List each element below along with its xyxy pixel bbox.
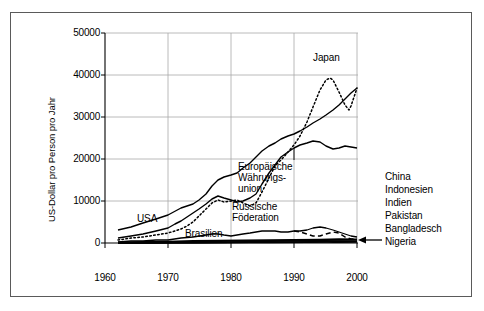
chart-figure: US-Dollar pro Person pro Jahr 50000 4000… [0, 0, 484, 311]
right-label-nigeria: Nigeria [385, 236, 416, 249]
annotation-russische-line2: Föderation [232, 212, 279, 224]
annotation-japan: Japan [313, 52, 340, 64]
annotation-ewu-line2: Währungs- [238, 172, 286, 184]
right-label-china: China [385, 171, 411, 184]
right-label-pakistan: Pakistan [385, 210, 423, 223]
right-label-indonesien: Indonesien [385, 184, 433, 197]
annotation-ewu-line3: union [238, 183, 262, 195]
plot-area [0, 0, 484, 311]
annotation-usa: USA [137, 213, 157, 225]
annotation-ewu-line1: Europäische [238, 161, 293, 173]
nigeria-arrow-icon [358, 237, 382, 244]
annotation-brasilien: Brasilien [185, 228, 222, 240]
right-label-bangladesch: Bangladesch [385, 223, 442, 236]
right-label-indien: Indien [385, 197, 412, 210]
annotation-russische-line1: Russische [232, 201, 277, 213]
